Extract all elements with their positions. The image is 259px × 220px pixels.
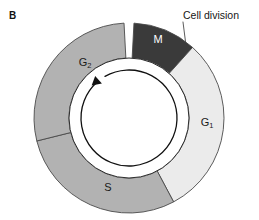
callout-label-cell-division: Cell division [183,10,239,21]
figure-root: B MG1SG2 Cell division [0,0,259,220]
callout-leader-line [183,22,186,42]
segment-label-m: M [153,33,162,45]
cell-cycle-diagram: MG1SG2 [0,0,259,220]
segment-label-s: S [104,181,111,193]
inner-circle [69,58,189,178]
